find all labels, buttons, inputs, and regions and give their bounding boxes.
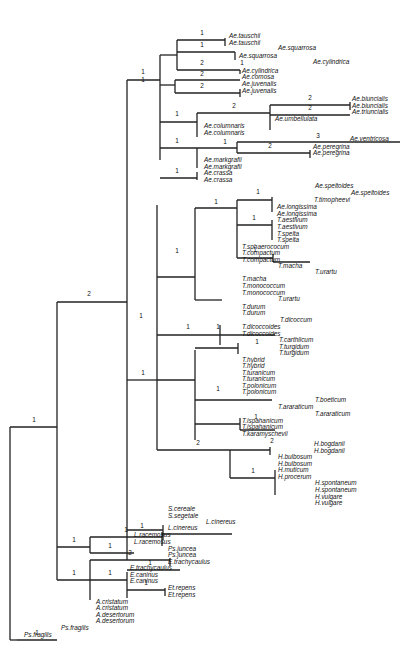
taxon-label: Ae.longissima — [277, 203, 317, 210]
taxon-label: Ae.squarrosa — [278, 44, 316, 51]
taxon-label: T.compactum — [242, 249, 280, 256]
taxon-label: T.turanicum — [242, 375, 275, 382]
support-value: 2 — [270, 437, 274, 444]
taxon-label: Ae.comosa — [242, 73, 274, 80]
taxon-label: T.boeticum — [315, 396, 346, 403]
support-value: 2 — [308, 104, 312, 111]
support-value: 1 — [200, 41, 204, 48]
taxon-label: T.spelta — [277, 236, 299, 243]
support-value: 2 — [128, 549, 132, 556]
support-value: 1 — [108, 569, 112, 576]
taxon-label: Ae.speltoides — [315, 182, 353, 189]
taxon-label: E.caninus — [130, 577, 158, 584]
support-value: 1 — [175, 247, 179, 254]
support-value: 1 — [252, 214, 256, 221]
taxon-label: Ae.markgrafii — [204, 156, 242, 163]
taxon-label: H.bogdanii — [314, 447, 345, 454]
support-value: 1 — [251, 467, 255, 474]
taxon-label: Ae.squarrosa — [239, 52, 277, 59]
taxon-label: T.macha — [278, 262, 302, 269]
taxon-label: S.segetale — [168, 512, 198, 519]
support-value: 1 — [141, 369, 145, 376]
support-value: 2 — [87, 290, 91, 297]
support-value: 1 — [175, 137, 179, 144]
taxon-label: Et.repens — [168, 591, 195, 598]
taxon-label: Ps.fragilis — [24, 631, 52, 638]
taxon-label: L.cinereus — [206, 518, 236, 525]
support-value: 1 — [240, 59, 244, 66]
taxon-label: T.durum — [242, 309, 265, 316]
taxon-label: T.aestivum — [277, 223, 308, 230]
support-value: 1 — [175, 110, 179, 117]
taxon-label: A.cristatum — [96, 604, 128, 611]
support-value: 1 — [141, 76, 145, 83]
taxon-label: T.karamyschevii — [242, 430, 288, 437]
taxon-label: H.spontaneum — [315, 479, 357, 486]
support-value: 1 — [223, 138, 227, 145]
taxon-label: Ae.juvenalis — [242, 80, 276, 87]
taxon-label: Ae.ventricosa — [350, 135, 389, 142]
support-value: 2 — [196, 439, 200, 446]
taxon-label: H.bulbosum — [278, 453, 312, 460]
taxon-label: T.dicoccoides — [242, 330, 280, 337]
support-value: 1 — [216, 323, 220, 330]
taxon-label: H.spontaneum — [315, 486, 357, 493]
support-value: 1 — [216, 385, 220, 392]
support-value: 3 — [316, 132, 320, 139]
taxon-label: A.desertorum — [96, 617, 134, 624]
support-value: 1 — [72, 536, 76, 543]
support-value: 1 — [214, 198, 218, 205]
taxon-label: H.bogdanii — [314, 440, 345, 447]
taxon-label: T.macha — [242, 275, 266, 282]
taxon-label: S.cereale — [168, 505, 195, 512]
support-value: 1 — [255, 338, 259, 345]
support-value: 1 — [141, 68, 145, 75]
taxon-label: Ae.tauschii — [229, 32, 260, 39]
taxon-label: H.procerum — [278, 473, 311, 480]
taxon-label: T.urartu — [315, 268, 337, 275]
support-value: 2 — [200, 82, 204, 89]
support-value: 2 — [200, 70, 204, 77]
taxon-label: T.compactum — [242, 256, 280, 263]
taxon-label: H.muticum — [278, 466, 309, 473]
taxon-label: Ps.fragilis — [61, 624, 89, 631]
support-value: 2 — [308, 94, 312, 101]
taxon-label: T.monococcum — [242, 282, 285, 289]
support-value: 1 — [186, 323, 190, 330]
support-value: 1 — [124, 526, 128, 533]
taxon-label: T.ispahanicum — [242, 423, 283, 430]
taxon-label: T.araraticum — [278, 403, 313, 410]
taxon-label: Ae.juvenalis — [242, 87, 276, 94]
support-value: 1 — [200, 29, 204, 36]
taxon-label: Ae.triuncialis — [352, 108, 388, 115]
taxon-label: Ae.columnaris — [204, 122, 245, 129]
taxon-label: T.urartu — [278, 295, 300, 302]
taxon-label: T.timopheevi — [314, 196, 350, 203]
support-value: 1 — [108, 542, 112, 549]
taxon-label: T.dicoccum — [280, 316, 312, 323]
taxon-label: T.araraticum — [315, 410, 350, 417]
support-value: 1 — [32, 416, 36, 423]
support-value: 1 — [139, 312, 143, 319]
taxon-label: Ae.cylindrica — [313, 58, 349, 65]
taxon-label: T.dicoccoides — [242, 323, 280, 330]
taxon-label: Ae.umbellulata — [275, 115, 317, 122]
taxon-label: H.vulgare — [315, 499, 342, 506]
taxon-label: T.polonicum — [242, 388, 276, 395]
support-value: 2 — [268, 142, 272, 149]
taxon-label: T.turgidum — [279, 349, 309, 356]
taxon-label: T.carthlicum — [279, 336, 313, 343]
taxon-label: Ae.tauschii — [229, 39, 260, 46]
taxon-label: Ae.crassa — [204, 169, 232, 176]
taxon-label: Et.repens — [168, 584, 195, 591]
support-value: 2 — [232, 102, 236, 109]
taxon-label: Ae.columnaris — [204, 129, 245, 136]
taxon-label: Ae.biuncialis — [352, 95, 388, 102]
taxon-label: Ae.crassa — [204, 176, 232, 183]
support-value: 1 — [140, 522, 144, 529]
taxon-label: L.racemosus — [134, 538, 171, 545]
taxon-label: E.trachycaulus — [168, 558, 210, 565]
taxon-label: L.racemosus — [134, 531, 171, 538]
support-value: 1 — [256, 188, 260, 195]
taxon-label: T.hybrid — [242, 362, 265, 369]
